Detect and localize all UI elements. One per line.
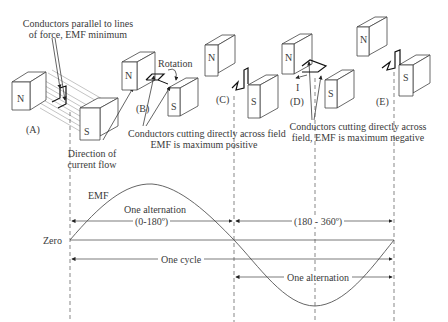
south-label-c: S xyxy=(251,96,257,107)
positive-annotation: Conductors cutting directly across field… xyxy=(128,128,280,150)
stage-d-label: (D) xyxy=(290,96,304,107)
parallel-annotation-line2: of force, EMF minimum xyxy=(18,29,138,40)
current-flow-annotation: Direction of current flow xyxy=(62,148,122,170)
first-alternation-label: One alternation xyxy=(124,204,186,215)
negative-annotation-line1: Conductors cutting directly across xyxy=(284,121,432,132)
positive-annotation-line1: Conductors cutting directly across field xyxy=(128,128,280,139)
emf-label: EMF xyxy=(88,190,109,201)
south-label-a: S xyxy=(84,126,90,137)
north-magnet-a xyxy=(12,72,46,110)
sine-waveform xyxy=(70,184,394,306)
south-label-d: S xyxy=(328,88,334,99)
current-symbol: I xyxy=(296,82,299,93)
stage-c-label: (C) xyxy=(216,94,229,105)
positive-annotation-line2: EMF is maximum positive xyxy=(128,139,280,150)
parallel-annotation-line1: Conductors parallel to lines xyxy=(18,18,138,29)
zero-label: Zero xyxy=(43,235,62,246)
north-label-d: N xyxy=(285,52,292,63)
negative-annotation-line2: field, EMF is maximum negative xyxy=(284,132,432,143)
stage-e-generator xyxy=(357,17,430,96)
sine-curve xyxy=(70,184,394,306)
second-range-label: (180 - 360º) xyxy=(292,216,344,227)
north-label-a: N xyxy=(17,93,24,104)
north-label-e: N xyxy=(360,34,367,45)
stage-b-label: (B) xyxy=(136,103,149,114)
stage-c-generator xyxy=(205,35,278,118)
current-flow-line1: Direction of xyxy=(62,148,122,159)
south-label-e: S xyxy=(403,72,409,83)
negative-annotation: Conductors cutting directly across field… xyxy=(284,121,432,143)
north-label-c: N xyxy=(208,52,215,63)
one-cycle-label: One cycle xyxy=(158,254,204,265)
rotation-label: Rotation xyxy=(158,58,192,69)
first-range-label: (0-180º) xyxy=(133,216,170,227)
stage-a-label: (A) xyxy=(26,124,40,135)
parallel-annotation: Conductors parallel to lines of force, E… xyxy=(18,18,138,40)
stage-e-label: (E) xyxy=(376,96,389,107)
current-flow-line2: current flow xyxy=(62,159,122,170)
south-label-b: S xyxy=(171,101,177,112)
second-alternation-label: One alternation xyxy=(284,272,352,283)
north-label-b: N xyxy=(125,70,132,81)
